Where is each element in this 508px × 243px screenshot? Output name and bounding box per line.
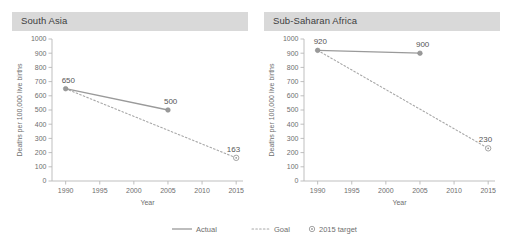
y-tick-label: 600: [287, 92, 299, 99]
chart-axes: [304, 39, 495, 181]
data-value-label: 500: [164, 97, 178, 106]
x-tick-label: 2005: [160, 187, 176, 194]
data-value-label: 920: [314, 37, 328, 46]
y-tick-label: 800: [287, 64, 299, 71]
y-tick-label: 600: [35, 92, 47, 99]
legend-label-2015-target: 2015 target: [319, 225, 358, 234]
y-tick-label: 700: [287, 78, 299, 85]
panel-header-south-asia: South Asia: [12, 12, 248, 31]
y-tick-label: 500: [287, 106, 299, 113]
x-tick-label: 1995: [92, 187, 108, 194]
x-tick-label: 1995: [344, 187, 360, 194]
data-value-label: 900: [416, 40, 430, 49]
legend-label-goal: Goal: [274, 225, 290, 234]
chart-south-asia: 0100200300400500600700800900100019901995…: [12, 31, 248, 212]
legend-label-actual: Actual: [196, 225, 217, 234]
x-tick-label: 1990: [310, 187, 326, 194]
y-tick-label: 900: [287, 50, 299, 57]
y-tick-label: 900: [35, 50, 47, 57]
x-tick-label: 2000: [378, 187, 394, 194]
y-tick-label: 800: [35, 64, 47, 71]
legend-graphic: ActualGoal2015 target: [0, 216, 508, 238]
data-value-label: 163: [227, 145, 241, 154]
series-line-goal: [318, 50, 489, 148]
y-axis-title: Deaths per 100,000 live births: [16, 63, 24, 156]
x-tick-label: 2005: [412, 187, 428, 194]
series-line-goal: [66, 89, 237, 158]
data-point-2015-target-center: [487, 147, 489, 149]
legend-marker-2015-target-center: [311, 228, 313, 230]
data-point-actual: [418, 51, 423, 56]
y-tick-label: 1000: [31, 35, 47, 42]
y-tick-label: 400: [35, 121, 47, 128]
x-axis-title: Year: [140, 199, 155, 206]
panel-title-south-asia: South Asia: [21, 15, 67, 26]
panel-title-sub-saharan-africa: Sub-Saharan Africa: [273, 15, 357, 26]
panel-south-asia: South Asia 01002003004005006007008009001…: [12, 0, 248, 212]
y-tick-label: 400: [287, 121, 299, 128]
x-axis-title: Year: [392, 199, 407, 206]
maternal-mortality-figure: South Asia 01002003004005006007008009001…: [0, 0, 508, 243]
x-tick-label: 2015: [228, 187, 244, 194]
data-point-actual: [63, 86, 68, 91]
y-tick-label: 200: [35, 149, 47, 156]
data-point-actual: [315, 48, 320, 53]
y-tick-label: 300: [287, 135, 299, 142]
x-tick-label: 2010: [194, 187, 210, 194]
y-tick-label: 0: [43, 177, 47, 184]
data-point-actual: [166, 108, 171, 113]
chart-sub-saharan-africa: 0100200300400500600700800900100019901995…: [264, 31, 500, 212]
data-value-label: 650: [62, 76, 76, 85]
y-tick-label: 200: [287, 149, 299, 156]
y-tick-label: 500: [35, 106, 47, 113]
x-tick-label: 2010: [446, 187, 462, 194]
chart-axes: [52, 39, 243, 181]
panel-header-sub-saharan-africa: Sub-Saharan Africa: [264, 12, 500, 31]
y-tick-label: 100: [35, 163, 47, 170]
data-value-label: 230: [479, 135, 493, 144]
series-line-actual: [318, 50, 420, 53]
series-line-actual: [66, 89, 168, 110]
y-tick-label: 100: [287, 163, 299, 170]
y-tick-label: 300: [35, 135, 47, 142]
y-tick-label: 0: [295, 177, 299, 184]
y-axis-title: Deaths per 100,000 live births: [268, 63, 276, 156]
x-tick-label: 1990: [58, 187, 74, 194]
panel-sub-saharan-africa: Sub-Saharan Africa 010020030040050060070…: [264, 0, 500, 212]
x-tick-label: 2000: [126, 187, 142, 194]
y-tick-label: 700: [35, 78, 47, 85]
x-tick-label: 2015: [480, 187, 496, 194]
y-tick-label: 1000: [283, 35, 299, 42]
data-point-2015-target-center: [235, 157, 237, 159]
chart-legend: ActualGoal2015 target: [0, 216, 508, 238]
